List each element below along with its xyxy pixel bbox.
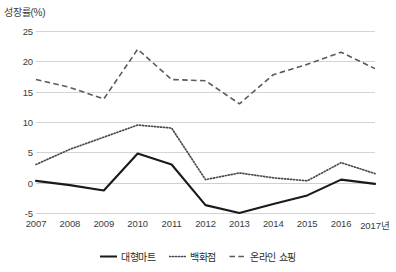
y-axis-title: 성장률(%) bbox=[4, 4, 45, 19]
series-lines bbox=[36, 31, 375, 213]
x-tick-label: 2012 bbox=[195, 218, 216, 229]
x-tick-label: 2011 bbox=[162, 218, 182, 229]
legend-item-2[interactable]: 온라인 쇼핑 bbox=[229, 249, 296, 264]
x-tick-label: 2013 bbox=[229, 218, 250, 229]
series-line-dotted bbox=[36, 125, 375, 181]
y-tick-label: 0 bbox=[3, 177, 33, 188]
y-tick-label: 25 bbox=[3, 26, 33, 37]
legend-swatch-dashed-icon bbox=[229, 252, 246, 261]
legend-label: 온라인 쇼핑 bbox=[250, 249, 296, 264]
series-line-solid bbox=[36, 154, 375, 213]
series-line-dashed bbox=[36, 49, 375, 104]
x-tick-label: 2016 bbox=[331, 218, 352, 229]
x-tick-label: 2014 bbox=[263, 218, 284, 229]
x-tick-label: 2008 bbox=[60, 218, 81, 229]
x-tick-label: 2015 bbox=[297, 218, 318, 229]
plot-area bbox=[36, 31, 375, 213]
legend-label: 백화점 bbox=[190, 249, 216, 264]
y-axis-tick-labels: 2520151050-5 bbox=[0, 31, 33, 213]
gridline--5 bbox=[36, 213, 375, 214]
x-tick-label: 2010 bbox=[127, 218, 148, 229]
y-tick-label: -5 bbox=[3, 208, 33, 219]
y-tick-label: 5 bbox=[3, 147, 33, 158]
line-chart: 성장률(%) 2520151050-5 20072008200920102011… bbox=[0, 0, 396, 272]
y-tick-label: 10 bbox=[3, 117, 33, 128]
legend-label: 대형마트 bbox=[121, 249, 156, 264]
chart-legend: 대형마트백화점온라인 쇼핑 bbox=[0, 246, 396, 266]
x-tick-label: 2017년 bbox=[360, 218, 390, 232]
legend-item-0[interactable]: 대형마트 bbox=[100, 249, 156, 264]
x-tick-label: 2007 bbox=[26, 218, 47, 229]
legend-item-1[interactable]: 백화점 bbox=[169, 249, 216, 264]
legend-swatch-dotted-icon bbox=[169, 252, 186, 261]
x-tick-label: 2009 bbox=[93, 218, 114, 229]
y-tick-label: 15 bbox=[3, 86, 33, 97]
legend-swatch-solid-icon bbox=[100, 252, 117, 261]
x-axis-tick-labels: 2007200820092010201120122013201420152016… bbox=[36, 218, 375, 232]
y-tick-label: 20 bbox=[3, 56, 33, 67]
